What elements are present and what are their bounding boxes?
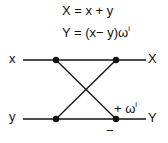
butterfly-diagram — [0, 0, 168, 143]
twiddle-factor-label: + ωi — [114, 98, 137, 116]
node-top-right — [113, 57, 119, 63]
twiddle-exponent: i — [135, 100, 137, 109]
output-X-label: X — [148, 52, 157, 66]
input-x-label: x — [9, 52, 16, 66]
input-y-label: y — [9, 110, 16, 124]
minus-sign: − — [106, 124, 114, 138]
node-bottom-right — [113, 116, 119, 122]
twiddle-text: + ω — [114, 101, 135, 116]
output-Y-label: Y — [148, 111, 157, 125]
node-bottom-left — [53, 116, 59, 122]
node-top-left — [53, 57, 59, 63]
